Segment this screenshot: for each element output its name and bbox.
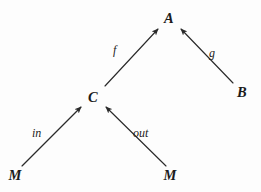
node-label-c: C bbox=[88, 90, 98, 105]
edge-g-line bbox=[181, 29, 233, 83]
edge-label-f: f bbox=[113, 44, 116, 56]
node-label-m-left: M bbox=[8, 168, 21, 183]
node-label-a: A bbox=[164, 11, 174, 26]
edge-g-group bbox=[181, 29, 233, 83]
edge-in-group bbox=[22, 107, 81, 166]
edge-label-in: in bbox=[32, 127, 41, 139]
edge-label-out: out bbox=[133, 127, 148, 139]
edge-label-g: g bbox=[209, 47, 215, 59]
edge-f-group bbox=[105, 29, 158, 86]
edge-f-line bbox=[105, 29, 158, 86]
node-label-m-right: M bbox=[163, 168, 176, 183]
edge-in-line bbox=[22, 107, 81, 166]
diagram-canvas-container: A B C M M f g in out bbox=[0, 0, 261, 192]
node-label-b: B bbox=[237, 85, 247, 100]
diagram-svg bbox=[0, 0, 261, 192]
